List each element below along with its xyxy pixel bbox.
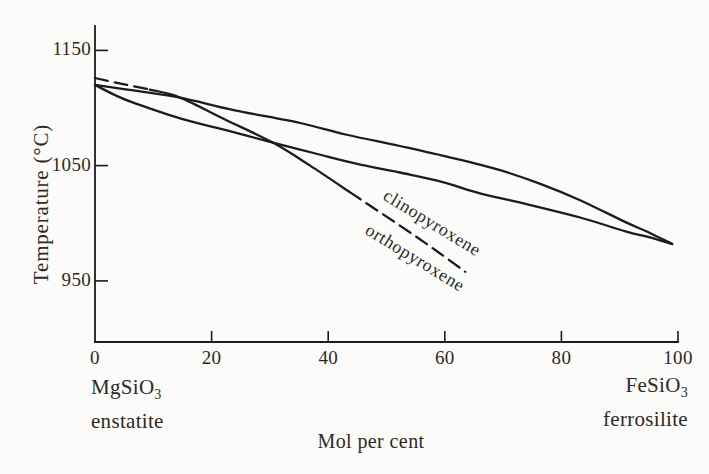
endmember-right-name: ferrosilite — [603, 406, 688, 432]
y-axis-title: Temperature (°C) — [29, 124, 54, 284]
axes-lines — [95, 25, 679, 342]
endmember-left-formula-subscript: 3 — [154, 387, 161, 402]
x-tick-label-100: 100 — [663, 347, 692, 369]
phase-diagram-figure: Temperature (°C) Mol per cent MgSiO3 ens… — [0, 0, 709, 474]
endmember-left-name: enstatite — [91, 408, 164, 434]
x-tick-label-20: 20 — [202, 347, 222, 369]
x-tick-label-0: 0 — [90, 347, 100, 369]
endmember-right-formula-base: FeSiO — [626, 373, 681, 397]
endmember-right-formula: FeSiO3 — [603, 372, 688, 406]
endmember-left-formula-base: MgSiO — [91, 375, 154, 399]
x-tick-label-60: 60 — [435, 347, 455, 369]
y-tick-label-950: 950 — [31, 269, 91, 291]
y-tick-label-1150: 1150 — [31, 38, 91, 60]
x-tick-label-80: 80 — [552, 347, 572, 369]
endmember-left: MgSiO3 enstatite — [91, 374, 164, 434]
y-tick-label-1050: 1050 — [31, 154, 91, 176]
endmember-right-formula-subscript: 3 — [681, 385, 688, 400]
curve-cpx-opx-boundary-solid — [150, 90, 350, 193]
endmember-right: FeSiO3 ferrosilite — [603, 372, 688, 432]
curve-two-phase-loop-lower — [95, 85, 672, 244]
endmember-left-formula: MgSiO3 — [91, 374, 164, 408]
x-axis-title: Mol per cent — [318, 430, 425, 453]
x-tick-label-40: 40 — [318, 347, 338, 369]
